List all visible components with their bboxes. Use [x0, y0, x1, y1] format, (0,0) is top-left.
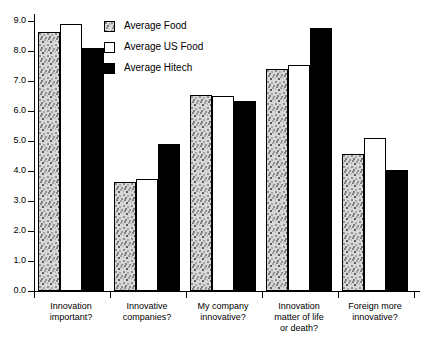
legend-label: Average US Food [124, 42, 203, 52]
y-axis-tick-label: 6.0 [0, 106, 26, 115]
bar [310, 28, 332, 291]
legend-item: Average Hitech [104, 58, 203, 78]
x-axis-tick [414, 292, 415, 298]
y-axis-tick-label: 8.0 [0, 46, 26, 55]
x-axis-line [34, 291, 420, 292]
y-axis-tick-label: 4.0 [0, 166, 26, 175]
x-axis-tick [110, 292, 111, 298]
x-axis-category-label-line: innovative? [328, 312, 422, 323]
legend-label: Average Food [124, 21, 187, 31]
x-axis-category-label-line: or death? [252, 323, 346, 334]
x-axis-category-label: Foreign moreinnovative? [328, 301, 422, 323]
bar [342, 154, 364, 291]
bar [212, 96, 234, 291]
x-axis-tick [338, 292, 339, 298]
y-axis-tick-label: 2.0 [0, 226, 26, 235]
x-axis-category-label-line: Foreign more [328, 301, 422, 312]
bar [82, 48, 104, 291]
bar [38, 32, 60, 292]
bar [266, 69, 288, 291]
legend-item: Average Food [104, 16, 203, 36]
y-axis-tick-label: 5.0 [0, 136, 26, 145]
bar [288, 65, 310, 291]
bar-chart: 0.01.02.03.04.05.06.07.08.09.0 Innovatio… [0, 0, 437, 353]
y-axis-tick-label: 7.0 [0, 76, 26, 85]
x-axis-tick [262, 292, 263, 298]
legend-swatch-black [104, 63, 115, 74]
x-axis-tick [186, 292, 187, 298]
legend-swatch-white [104, 42, 115, 53]
bar [234, 101, 256, 292]
bar [114, 182, 136, 292]
y-axis-tick-label: 9.0 [0, 16, 26, 25]
bar [60, 24, 82, 291]
y-axis-tick-label: 0.0 [0, 286, 26, 295]
y-axis-tick-label: 1.0 [0, 256, 26, 265]
bar [386, 170, 408, 292]
bar [190, 95, 212, 292]
bar [158, 144, 180, 291]
bar [364, 138, 386, 291]
legend-item: Average US Food [104, 37, 203, 57]
legend-swatch-gray [104, 21, 115, 32]
legend: Average FoodAverage US FoodAverage Hitec… [104, 16, 203, 79]
x-axis-tick [34, 292, 35, 298]
bar [136, 179, 158, 291]
plot-area [34, 14, 426, 291]
y-axis-tick-label: 3.0 [0, 196, 26, 205]
legend-label: Average Hitech [124, 63, 192, 73]
